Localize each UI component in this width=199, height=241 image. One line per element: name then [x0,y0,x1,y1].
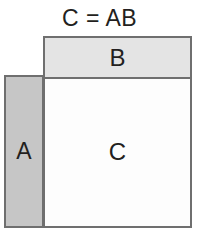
matrix-block-a: A [4,75,44,228]
matrix-block-b: B [43,36,192,79]
matrix-label-a: A [16,140,31,163]
matrix-label-c: C [109,140,126,164]
matrix-label-b: B [109,46,125,70]
matrix-block-c: C [43,76,192,228]
matrix-multiplication-diagram: C = AB B C A [0,0,199,241]
diagram-title: C = AB [0,5,199,32]
